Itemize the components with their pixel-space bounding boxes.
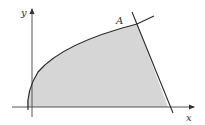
point-a-label: A (115, 15, 123, 26)
x-axis-label: x (186, 112, 192, 123)
y-axis-label: y (20, 7, 27, 18)
diagram-canvas: y x A (0, 0, 205, 125)
